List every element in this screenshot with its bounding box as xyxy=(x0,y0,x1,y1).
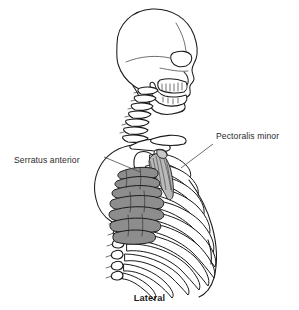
vertebra-c1 xyxy=(138,87,158,94)
vertebra-c3 xyxy=(131,103,153,110)
vertebra-c2 xyxy=(134,95,156,102)
figure-caption: Lateral xyxy=(134,293,166,303)
vertebra-t6 xyxy=(111,250,123,259)
pectoralis-minor-label: Pectoralis minor xyxy=(216,131,279,141)
serratus-anterior-label: Serratus anterior xyxy=(14,155,80,165)
serratus-digitation xyxy=(113,230,156,244)
vertebra-t8 xyxy=(111,271,123,280)
lateral-anatomy-illustration: Serratus anterior Pectoralis minor Later… xyxy=(0,0,299,310)
vertebra-c5 xyxy=(126,119,149,126)
vertebra-c4 xyxy=(129,111,151,118)
orbit-icon xyxy=(171,51,192,67)
anatomy-figure: Serratus anterior Pectoralis minor Later… xyxy=(0,0,299,310)
vertebra-t7 xyxy=(111,261,123,270)
vertebra-c6 xyxy=(124,127,148,134)
